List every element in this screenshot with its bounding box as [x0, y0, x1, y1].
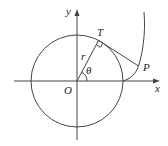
y-axis-arrow-icon: [75, 9, 80, 16]
angle-label: θ: [86, 64, 92, 76]
involute-diagram: y x O T P r θ: [0, 0, 168, 146]
tangent-point-label: T: [97, 26, 104, 38]
radius-label: r: [81, 50, 86, 62]
origin-label: O: [64, 84, 72, 96]
involute-curve: [123, 12, 145, 81]
curve-point-label: P: [142, 61, 150, 73]
y-axis-label: y: [65, 5, 71, 17]
x-axis-label: x: [154, 82, 160, 94]
